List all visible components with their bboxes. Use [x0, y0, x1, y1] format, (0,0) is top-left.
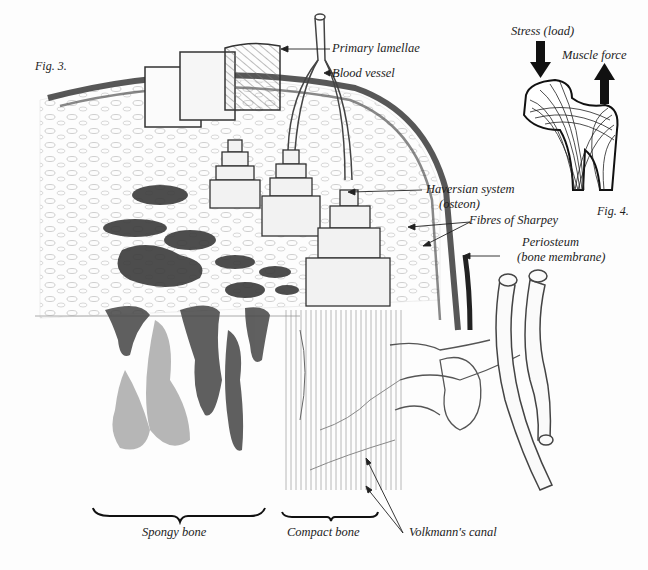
label-volkmanns-canal: Volkmann's canal: [409, 525, 497, 539]
label-compact-bone: Compact bone: [287, 525, 360, 539]
label-periosteum: Periosteum: [522, 235, 579, 249]
fig4-caption: Fig. 4.: [597, 204, 629, 218]
label-fibres-of-sharpey: Fibres of Sharpey: [469, 213, 558, 227]
label-periosteum-sub: (bone membrane): [517, 250, 606, 264]
fig3-bone-block: [35, 14, 553, 490]
label-stress-load: Stress (load): [511, 24, 574, 38]
label-primary-lamellae: Primary lamellae: [332, 41, 420, 55]
label-haversian-system: Haversian system: [426, 182, 515, 196]
fig3-caption: Fig. 3.: [35, 59, 67, 73]
illustration-canvas: [0, 0, 648, 570]
external-blood-vessels: [496, 270, 553, 490]
label-blood-vessel: Blood vessel: [332, 66, 395, 80]
label-muscle-force: Muscle force: [562, 48, 626, 62]
label-spongy-bone: Spongy bone: [142, 525, 206, 539]
label-haversian-system-sub: (osteon): [439, 197, 480, 211]
fig4-femur: [524, 41, 618, 190]
stress-arrow-icon: [530, 62, 551, 78]
muscle-force-arrow-icon: [594, 63, 615, 80]
bone-structure-illustration: Fig. 3. Primary lamellae Blood vessel Ha…: [0, 0, 648, 570]
brace-marks: [93, 508, 378, 522]
